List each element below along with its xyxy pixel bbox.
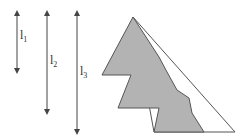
label-l2: l2 [50, 53, 57, 69]
label-l1: l1 [20, 28, 27, 44]
arrow-l3: l3 [77, 13, 87, 132]
arrow-l1: l1 [17, 13, 27, 71]
label-l3: l3 [80, 64, 87, 80]
arrow-l2: l2 [47, 13, 57, 112]
diagram-canvas: l1 l2 l3 [0, 0, 248, 138]
